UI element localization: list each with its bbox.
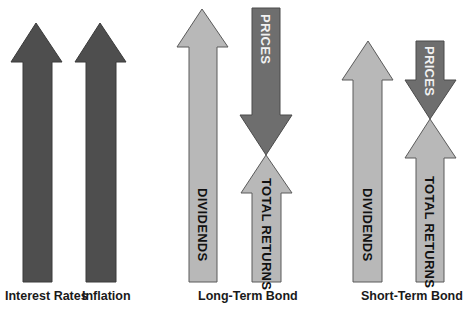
long-term-bond-caption: Long-Term Bond — [198, 289, 298, 303]
short-term-bond-caption: Short-Term Bond — [361, 289, 463, 303]
long-term-dividends-label: DIVIDENDS — [195, 188, 210, 262]
inflation-up-arrow-icon — [75, 23, 126, 282]
short-term-dividends-label: DIVIDENDS — [360, 188, 375, 262]
short-term-bond-group: DIVIDENDS PRICES TOTAL RETURNS Short-Ter… — [342, 41, 463, 303]
long-term-bond-group: DIVIDENDS PRICES TOTAL RETURNS Long-Term… — [177, 8, 298, 303]
short-term-total-returns-label: TOTAL RETURNS — [422, 176, 437, 288]
short-term-prices-label: PRICES — [422, 46, 437, 96]
inflation-group: Inflation — [75, 23, 131, 303]
interest-rates-caption: Interest Rates — [5, 289, 88, 303]
long-term-total-returns-label: TOTAL RETURNS — [259, 178, 274, 290]
long-term-prices-label: PRICES — [258, 14, 273, 64]
bond-factors-diagram: Interest Rates Inflation DIVIDENDS PRICE… — [0, 0, 463, 310]
inflation-caption: Inflation — [82, 289, 131, 303]
interest-rates-group: Interest Rates — [5, 23, 88, 303]
interest-rates-up-arrow-icon — [11, 23, 62, 282]
